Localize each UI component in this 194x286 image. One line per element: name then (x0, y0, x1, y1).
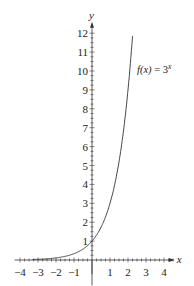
x-tick-label: −1 (68, 266, 80, 278)
function-name: f(x) (137, 64, 152, 76)
y-tick-label: 6 (83, 141, 89, 153)
x-axis-arrow-icon (169, 258, 175, 262)
y-axis-label: y (88, 9, 94, 21)
y-tick-label: 3 (83, 197, 89, 209)
y-tick-label: 4 (83, 178, 89, 190)
y-tick-label: 5 (83, 160, 89, 172)
x-tick-label: 1 (107, 266, 113, 278)
y-tick-label: 2 (83, 216, 89, 228)
y-tick-label: 7 (83, 122, 89, 134)
function-exponent: x (167, 62, 172, 71)
axes (15, 22, 175, 285)
y-tick-label: 8 (83, 103, 89, 115)
y-tick-label: 12 (77, 27, 88, 39)
x-axis-label: x (176, 253, 182, 265)
y-tick-label: 9 (83, 84, 89, 96)
x-tick-label: 3 (143, 266, 149, 278)
y-axis-arrow-icon (90, 22, 94, 28)
x-tick-label: −3 (32, 266, 44, 278)
y-tick-label: 11 (77, 46, 88, 58)
exponential-chart: −4−3−2−11234123456789101112 x y f(x) = 3… (0, 0, 194, 286)
y-tick-label: 1 (83, 235, 89, 247)
x-tick-label: −2 (50, 266, 62, 278)
function-label: f(x) = 3x (137, 62, 172, 76)
y-tick-label: 10 (77, 65, 89, 77)
x-tick-label: 4 (161, 266, 167, 278)
function-equals: = 3 (152, 64, 168, 75)
x-tick-label: −4 (14, 266, 26, 278)
x-tick-label: 2 (125, 266, 131, 278)
